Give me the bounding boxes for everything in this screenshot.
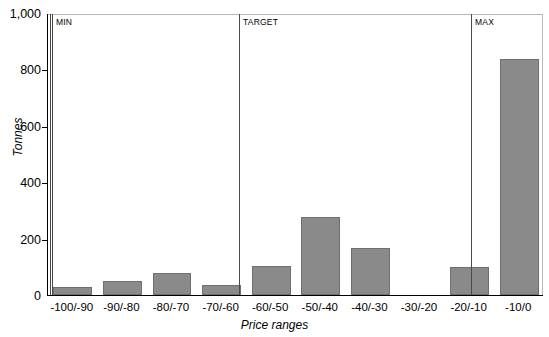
y-axis-title: Tonnes [11,97,25,177]
bar [252,266,291,295]
bar [301,217,340,295]
x-axis-title: Price ranges [0,318,549,332]
x-tick-label: -80/-70 [153,301,189,313]
x-tick-label: -90/-80 [103,301,139,313]
x-tick-label: -50/-40 [302,301,338,313]
y-tick-label: 0 [0,290,41,303]
marker-line-max [471,14,472,295]
y-tick-label: 400 [0,177,41,190]
bar [202,285,241,295]
x-tick-label: -30/-20 [401,301,437,313]
plot-area: MINTARGETMAX [47,14,543,296]
marker-label-target: TARGET [243,17,278,27]
x-tick-label: -20/-10 [450,301,486,313]
bar [450,267,489,295]
bar [500,59,539,295]
x-tick-label: -100/-90 [50,301,93,313]
bar [153,273,192,295]
y-tick-label: 1,000 [0,8,41,21]
x-tick-label: -10/0 [505,301,531,313]
marker-label-max: MAX [475,17,494,27]
bar [53,287,92,295]
x-tick-label: -60/-50 [252,301,288,313]
bar [103,281,142,295]
bar-chart: Tonnes 02004006008001,000 MINTARGETMAX -… [0,0,549,337]
marker-line-target [239,14,240,295]
bars-layer [48,14,543,295]
x-tick-label: -70/-60 [202,301,238,313]
marker-label-min: MIN [56,17,72,27]
y-tick-label: 800 [0,64,41,77]
marker-line-min [50,14,51,295]
x-tick-label: -40/-30 [351,301,387,313]
bar [351,248,390,295]
y-tick-label: 600 [0,121,41,134]
y-tick-label: 200 [0,233,41,246]
